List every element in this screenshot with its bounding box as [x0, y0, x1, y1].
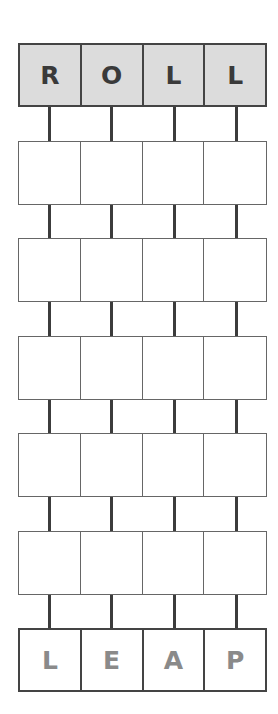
letter-input-cell[interactable]: [18, 336, 82, 400]
end-letter-cell: E: [80, 628, 144, 692]
connector: [48, 302, 51, 336]
answer-row-2: [18, 238, 267, 302]
connector: [173, 497, 176, 531]
answer-row-1: [18, 141, 267, 205]
letter-input-cell[interactable]: [203, 433, 267, 497]
letter-input-cell[interactable]: [142, 238, 206, 302]
letter-input-cell[interactable]: [142, 336, 206, 400]
start-letter-cell: O: [80, 43, 144, 107]
letter-input-cell[interactable]: [203, 531, 267, 595]
rung-connectors: [18, 205, 267, 239]
end-letter-cell: P: [203, 628, 267, 692]
connector: [48, 205, 51, 239]
connector: [110, 107, 113, 141]
rung-connectors: [18, 107, 267, 141]
letter-input-cell[interactable]: [18, 141, 82, 205]
connector: [48, 497, 51, 531]
end-word-row: L E A P: [18, 628, 267, 692]
connector: [235, 400, 238, 434]
connector: [48, 107, 51, 141]
connector: [173, 205, 176, 239]
answer-row-4: [18, 433, 267, 497]
connector: [173, 400, 176, 434]
letter-input-cell[interactable]: [142, 433, 206, 497]
letter-input-cell[interactable]: [80, 238, 144, 302]
letter-input-cell[interactable]: [203, 238, 267, 302]
connector: [110, 497, 113, 531]
start-letter-cell: R: [18, 43, 82, 107]
connector: [173, 107, 176, 141]
start-letter-cell: L: [203, 43, 267, 107]
connector: [110, 400, 113, 434]
letter-input-cell[interactable]: [80, 141, 144, 205]
start-word-row: R O L L: [18, 43, 267, 107]
connector: [110, 302, 113, 336]
connector: [110, 205, 113, 239]
end-letter-cell: A: [142, 628, 206, 692]
letter-input-cell[interactable]: [80, 531, 144, 595]
rung-connectors: [18, 302, 267, 336]
rung-connectors: [18, 400, 267, 434]
letter-input-cell[interactable]: [142, 141, 206, 205]
connector: [235, 497, 238, 531]
connector: [110, 595, 113, 629]
letter-input-cell[interactable]: [18, 238, 82, 302]
answer-row-5: [18, 531, 267, 595]
end-letter-cell: L: [18, 628, 82, 692]
letter-input-cell[interactable]: [80, 433, 144, 497]
connector: [173, 595, 176, 629]
letter-input-cell[interactable]: [203, 141, 267, 205]
letter-input-cell[interactable]: [18, 531, 82, 595]
connector: [48, 595, 51, 629]
connector: [235, 205, 238, 239]
start-letter-cell: L: [142, 43, 206, 107]
connector: [173, 302, 176, 336]
connector: [235, 107, 238, 141]
answer-row-3: [18, 336, 267, 400]
connector: [235, 302, 238, 336]
letter-input-cell[interactable]: [142, 531, 206, 595]
letter-input-cell[interactable]: [203, 336, 267, 400]
letter-input-cell[interactable]: [18, 433, 82, 497]
rung-connectors: [18, 497, 267, 531]
rung-connectors: [18, 595, 267, 629]
connector: [235, 595, 238, 629]
letter-input-cell[interactable]: [80, 336, 144, 400]
connector: [48, 400, 51, 434]
